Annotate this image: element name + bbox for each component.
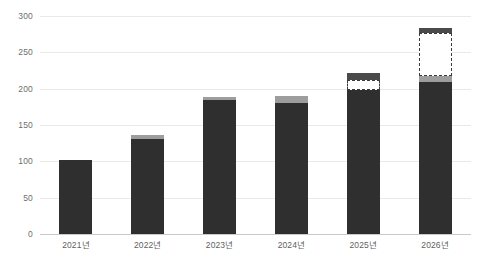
y-tick-label: 300: [18, 11, 33, 21]
bar-segment-actual[interactable]: [131, 139, 164, 234]
x-axis-line: [40, 234, 471, 235]
x-tick-label: 2024년: [278, 238, 305, 250]
x-axis-labels: 2021년2022년2023년2024년2025년2026년: [40, 238, 471, 258]
y-tick-label: 250: [18, 47, 33, 57]
y-tick-label: 0: [28, 229, 33, 239]
bar-segment-increment-gray[interactable]: [131, 135, 164, 139]
bar-segment-increment-gray[interactable]: [203, 97, 236, 100]
bar-segment-actual[interactable]: [275, 103, 308, 234]
plot-area: 300250200150100500: [40, 16, 471, 234]
bar-segment-projection-cap[interactable]: [347, 73, 380, 80]
bar-segment-projected-dashed[interactable]: [347, 80, 380, 90]
y-tick-label: 100: [18, 156, 33, 166]
x-tick-label: 2021년: [62, 238, 89, 250]
x-tick-label: 2022년: [134, 238, 161, 250]
bar-segment-increment-gray[interactable]: [419, 76, 452, 83]
bar-chart: 300250200150100500 2021년2022년2023년2024년2…: [0, 0, 477, 259]
y-tick-label: 50: [23, 193, 33, 203]
x-tick-label: 2026년: [421, 238, 448, 250]
bar-series-group: [40, 16, 471, 234]
bar-segment-increment-gray[interactable]: [275, 96, 308, 103]
bar-segment-projected-dashed[interactable]: [419, 33, 452, 76]
bar-segment-actual[interactable]: [347, 90, 380, 234]
y-tick-label: 150: [18, 120, 33, 130]
x-tick-label: 2023년: [206, 238, 233, 250]
bar-segment-actual[interactable]: [419, 82, 452, 234]
bar-segment-actual[interactable]: [59, 160, 92, 234]
y-tick-label: 200: [18, 84, 33, 94]
x-tick-label: 2025년: [350, 238, 377, 250]
bar-segment-projection-cap[interactable]: [419, 28, 452, 33]
bar-segment-actual[interactable]: [203, 100, 236, 234]
